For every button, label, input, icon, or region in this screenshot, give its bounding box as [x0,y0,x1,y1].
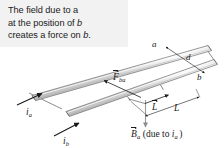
caption-line-3-prefix: creates a force on [8,30,83,40]
caption-line-2-prefix: at the position of [8,18,77,28]
label-rod-b: b [197,73,202,82]
current-b-arrow [54,123,79,136]
caption-line-3: creates a force on b. [8,29,130,42]
caption-text: The field due to a at the position of b … [8,4,130,42]
length-vector-arrow [129,95,169,104]
caption-line-2: at the position of b [8,17,130,30]
label-current-ib: ib [63,137,69,147]
field-vector-symbol: B [131,130,137,140]
field-note-current-subscript: a [175,133,178,140]
current-b-subscript: b [66,140,69,147]
field-note-current: i [172,129,175,139]
label-length-vector: L [152,103,157,113]
caption-line-3-suffix: . [88,30,91,40]
force-subscript: ba [119,76,125,83]
field-note-close: ) [179,129,182,139]
label-length-scalar: L [174,104,179,114]
label-field-ba: Ba(due to ia) [131,130,183,140]
force-symbol-letter: F [113,72,119,82]
physics-figure: The field due to a at the position of b … [0,0,224,148]
current-a-subscript: a [29,111,32,118]
field-subscript: a [137,133,140,140]
length-vector-symbol: L [152,103,157,113]
vector-overbar-icon [131,127,137,128]
vector-overbar-icon [113,70,119,71]
caption-box: The field due to a at the position of b … [0,0,128,47]
label-current-ia: ia [26,108,32,118]
length-vector-letter: L [152,102,157,112]
caption-line-1: The field due to a [8,4,130,17]
caption-line-2-italic: b [77,18,82,28]
label-force-fba: Fba [113,73,125,83]
field-note-open: (due to [143,129,172,139]
label-rod-a: a [152,40,157,49]
force-vector-symbol: F [113,73,119,83]
vector-overbar-icon [152,100,157,101]
label-separation-d: d [186,53,191,62]
field-symbol-letter: B [131,129,137,139]
